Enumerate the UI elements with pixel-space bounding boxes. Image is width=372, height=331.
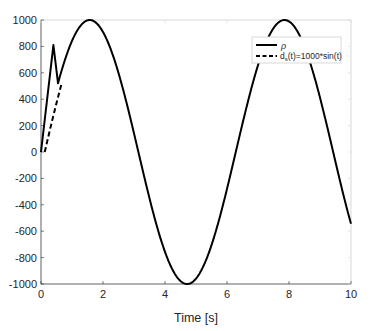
legend: ρds(t)=1000*sin(t) <box>252 37 342 63</box>
y-tick-label: -800 <box>15 252 37 264</box>
chart-figure: 0246810-1000-800-600-400-200020040060080… <box>0 0 372 331</box>
x-axis-label: Time [s] <box>174 311 218 325</box>
x-tick-label: 0 <box>38 288 44 300</box>
x-tick-label: 6 <box>224 288 230 300</box>
y-tick-label: 800 <box>19 40 37 52</box>
y-tick-label: -1000 <box>9 278 37 290</box>
y-tick-label: 200 <box>19 120 37 132</box>
x-tick-label: 10 <box>345 288 357 300</box>
x-tick-label: 4 <box>162 288 168 300</box>
x-tick-label: 8 <box>286 288 292 300</box>
y-tick-label: -200 <box>15 172 37 184</box>
y-tick-label: 400 <box>19 93 37 105</box>
y-tick-label: -600 <box>15 225 37 237</box>
legend-label-ds: ds(t)=1000*sin(t) <box>280 51 342 62</box>
x-tick-label: 2 <box>100 288 106 300</box>
y-tick-label: 600 <box>19 67 37 79</box>
legend-label-rho: ρ <box>280 41 286 51</box>
y-tick-label: -400 <box>15 199 37 211</box>
y-tick-label: 1000 <box>13 14 37 26</box>
y-tick-label: 0 <box>31 146 37 158</box>
